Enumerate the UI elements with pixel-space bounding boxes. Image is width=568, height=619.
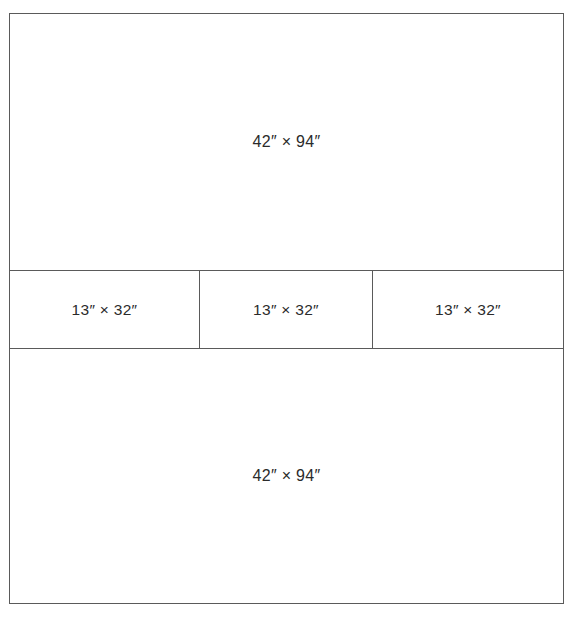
panel-middle-left-label: 13″ × 32″ [72, 302, 138, 318]
panel-middle-left: 13″ × 32″ [10, 271, 199, 348]
panel-middle-center: 13″ × 32″ [200, 271, 372, 348]
panel-middle-center-label: 13″ × 32″ [253, 302, 319, 318]
panel-middle-right-label: 13″ × 32″ [435, 302, 501, 318]
panel-bottom-label: 42″ × 94″ [253, 468, 321, 484]
panel-top-label: 42″ × 94″ [253, 134, 321, 150]
panel-middle-right: 13″ × 32″ [373, 271, 563, 348]
panel-layout-diagram: 42″ × 94″ 13″ × 32″ 13″ × 32″ 13″ × 32″ … [0, 0, 568, 619]
panel-bottom: 42″ × 94″ [10, 349, 563, 603]
panel-top: 42″ × 94″ [10, 14, 563, 270]
